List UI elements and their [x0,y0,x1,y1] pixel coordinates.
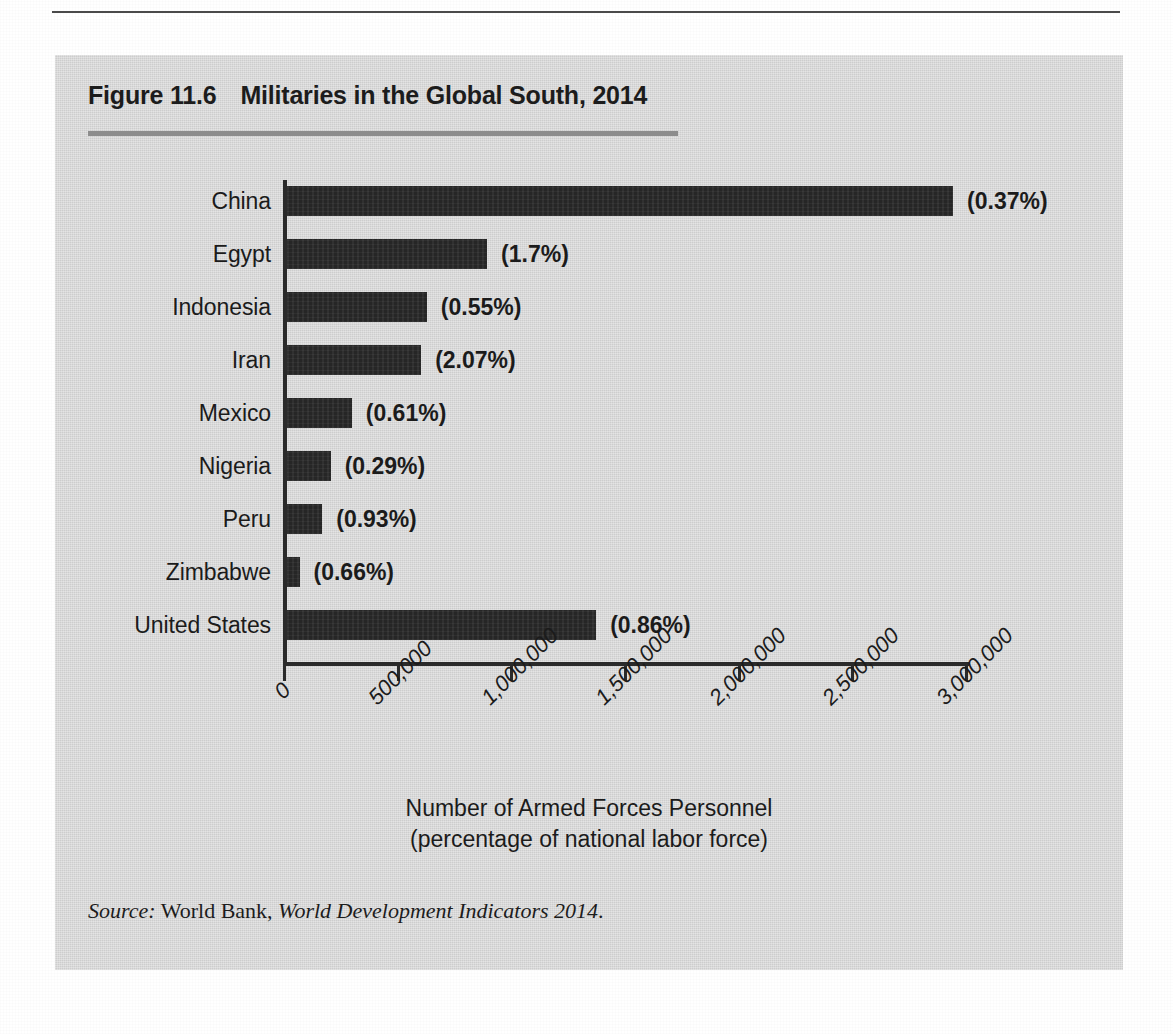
chart-bar [287,186,953,216]
x-axis-tick-label: 2,000,000 [704,623,792,711]
bar-value-label: (0.93%) [336,506,417,533]
bar-value-label: (0.55%) [441,294,522,321]
source-label: Source: [88,898,156,923]
source-terminator: . [598,898,604,923]
category-label: United States [134,612,271,639]
x-axis-tick-label: 2,500,000 [817,623,905,711]
x-axis-tick [283,666,286,681]
page-bleedthrough-text [1128,60,1172,940]
bar-value-label: (0.61%) [366,400,447,427]
bar-value-label: (0.37%) [967,188,1048,215]
bar-value-label: (2.07%) [435,347,516,374]
bar-value-label: (0.66%) [314,559,395,586]
source-note: Source: World Bank, World Development In… [88,898,604,924]
x-axis-title: Number of Armed Forces Personnel (percen… [55,793,1123,855]
category-label: Nigeria [199,453,271,480]
figure-panel: Figure 11.6Militaries in the Global Sout… [55,55,1123,970]
category-label: Peru [223,506,271,533]
x-axis-tick-label: 500,000 [363,636,438,711]
source-publisher: World Bank, [161,898,273,923]
source-work: World Development Indicators 2014 [278,898,598,923]
x-axis-tick-label: 3,000,000 [931,623,1019,711]
chart-bar [287,398,352,428]
category-label: Mexico [199,400,271,427]
x-axis-title-line2: (percentage of national labor force) [55,824,1123,855]
page-top-rule [52,11,1120,13]
bar-value-label: (1.7%) [501,241,569,268]
x-axis-title-line1: Number of Armed Forces Personnel [55,793,1123,824]
category-label: Iran [232,347,271,374]
chart-bar [287,451,331,481]
bar-value-label: (0.29%) [345,453,426,480]
category-label: China [211,188,271,215]
category-label: Egypt [213,241,271,268]
chart-bar [287,345,421,375]
chart-bar [287,292,427,322]
category-label: Zimbabwe [166,559,271,586]
chart-bar [287,557,300,587]
chart-bar [287,239,487,269]
category-label: Indonesia [172,294,271,321]
chart-bar [287,504,322,534]
x-axis-tick-label: 0 [269,677,296,704]
